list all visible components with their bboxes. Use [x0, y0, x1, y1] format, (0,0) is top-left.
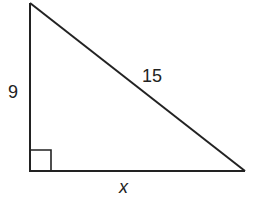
hypotenuse	[30, 3, 245, 171]
triangle	[29, 3, 245, 171]
vertical-leg-label: 9	[8, 82, 18, 102]
right-angle-marker	[30, 150, 51, 171]
right-triangle-diagram: 9 15 x	[0, 0, 258, 206]
horizontal-leg-label: x	[118, 177, 129, 197]
hypotenuse-label: 15	[142, 66, 162, 86]
